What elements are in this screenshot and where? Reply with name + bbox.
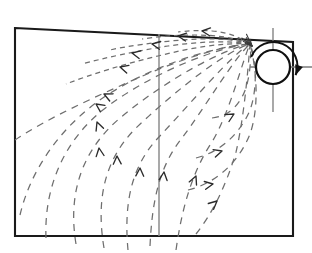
figure-root: Vortex induced flow field <box>0 0 312 253</box>
vortex-core-circle <box>256 50 290 84</box>
flow-field-svg <box>0 0 312 253</box>
circulation-arrow-tip <box>295 64 303 75</box>
